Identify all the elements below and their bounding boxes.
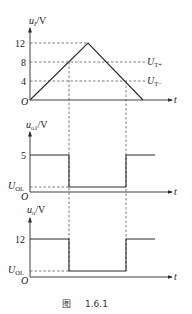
y-axis-label: uI/V (29, 15, 47, 27)
chart-output-uo1: uo1/V 5 UOL O t (8, 119, 177, 202)
origin-label: O (21, 275, 28, 286)
y-axis-label: uo/V (27, 204, 46, 216)
tick-8: 8 (21, 57, 26, 68)
figure-caption: 图 1.6.1 (62, 299, 108, 309)
t-axis-label: t (174, 186, 177, 197)
tick-12: 12 (15, 38, 25, 49)
ut-plus-label: UT+ (147, 56, 162, 68)
t-axis-label: t (174, 271, 177, 282)
tick-12: 12 (15, 234, 25, 245)
chart-output-uo: uo/V 12 UOL O t (8, 204, 177, 286)
figure-canvas: uI/V 12 8 4 O t UT+ UT− uo1/V 5 UOL O t (0, 0, 192, 314)
origin-label: O (21, 191, 28, 202)
ut-minus-label: UT− (147, 75, 162, 87)
origin-label: O (21, 96, 28, 107)
y-axis-label: uo1/V (26, 119, 48, 131)
t-axis-label: t (174, 94, 177, 105)
caption-prefix: 图 (62, 299, 71, 309)
square-waveform-uo (30, 239, 155, 271)
tick-5: 5 (21, 150, 26, 161)
square-waveform-uo1 (30, 155, 155, 187)
tick-4: 4 (21, 76, 26, 87)
caption-number: 1.6.1 (85, 299, 108, 309)
chart-input-voltage: uI/V 12 8 4 O t UT+ UT− (15, 15, 177, 107)
